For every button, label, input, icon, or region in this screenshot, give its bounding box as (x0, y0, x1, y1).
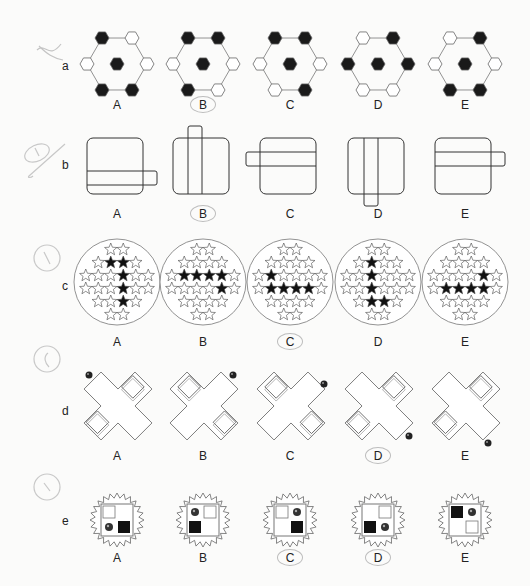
square-band-figure-b (151, 116, 251, 216)
badge-figure-b (173, 490, 233, 550)
option-label-b-a[interactable]: A (102, 207, 132, 221)
option-label-b-e[interactable]: E (450, 207, 480, 221)
option-label-e-b[interactable]: B (188, 551, 218, 565)
cross-figure-c (241, 356, 341, 456)
badge-figure-e (435, 490, 495, 550)
hexagon-figure-a (67, 24, 167, 104)
pencil-answer-circle (277, 549, 303, 566)
question-label-e: e (62, 514, 69, 528)
square-band-figure-e (413, 116, 513, 216)
cross-figure-d (329, 356, 429, 456)
hexagon-figure-d (328, 24, 428, 104)
hexagon-figure-e (415, 24, 515, 104)
square-band-figure-d (326, 116, 426, 216)
pencil-answer-circle (190, 205, 216, 222)
pencil-answer-circle (365, 447, 391, 464)
badge-figure-c (260, 490, 320, 550)
pencil-answer-circle (365, 549, 391, 566)
option-label-b-d[interactable]: D (363, 207, 393, 221)
cross-figure-b (154, 356, 254, 456)
option-label-a-d[interactable]: D (363, 98, 393, 112)
option-label-a-e[interactable]: E (450, 98, 480, 112)
option-label-c-e[interactable]: E (450, 335, 480, 349)
pencil-answer-circle (277, 333, 303, 350)
badge-figure-d (348, 490, 408, 550)
option-label-d-a[interactable]: A (102, 449, 132, 463)
option-label-d-e[interactable]: E (450, 449, 480, 463)
option-label-e-e[interactable]: E (450, 551, 480, 565)
option-label-c-b[interactable]: B (188, 335, 218, 349)
option-label-b-c[interactable]: C (275, 207, 305, 221)
pencil-circled-one-mark (33, 244, 63, 274)
option-label-c-a[interactable]: A (102, 335, 132, 349)
question-label-c: c (62, 279, 68, 293)
option-label-c-d[interactable]: D (363, 335, 393, 349)
star-circle-figure-c (244, 236, 336, 328)
cross-figure-a (68, 356, 168, 456)
cross-figure-e (416, 356, 516, 456)
pencil-answer-circle (190, 96, 216, 113)
pencil-circled-one-mark (33, 345, 63, 375)
square-band-figure-c (238, 116, 338, 216)
option-label-e-a[interactable]: A (102, 551, 132, 565)
star-circle-figure-b (157, 236, 249, 328)
square-band-figure-a (65, 116, 165, 216)
pencil-cross-mark (35, 40, 65, 65)
option-label-a-a[interactable]: A (102, 98, 132, 112)
option-label-a-c[interactable]: C (275, 98, 305, 112)
option-label-d-c[interactable]: C (275, 449, 305, 463)
star-circle-figure-e (419, 236, 511, 328)
hexagon-figure-c (240, 24, 340, 104)
badge-figure-a (87, 490, 147, 550)
option-label-d-b[interactable]: B (188, 449, 218, 463)
star-circle-figure-d (332, 236, 424, 328)
star-circle-figure-a (71, 236, 163, 328)
pencil-circled-one-mark (33, 473, 63, 503)
hexagon-figure-b (153, 24, 253, 104)
